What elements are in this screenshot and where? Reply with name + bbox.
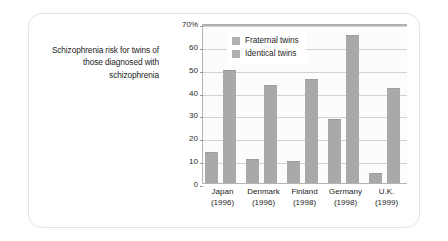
- bar-identical: [346, 35, 359, 184]
- bar-identical: [387, 88, 400, 184]
- x-axis-label-year: (1998): [325, 198, 366, 209]
- y-axis-tick-label: 10: [189, 157, 198, 166]
- bar-identical: [223, 70, 236, 184]
- bar-chart: 70%6050403020100 Fraternal twinsIdentica…: [172, 24, 412, 224]
- bar-group: [367, 26, 408, 184]
- x-axis-label: Denmark(1996): [243, 187, 284, 208]
- y-axis-tick-label: 70%: [182, 20, 198, 29]
- bar-fraternal: [246, 159, 259, 184]
- bar-fraternal: [205, 152, 218, 184]
- x-axis-label-year: (1996): [243, 198, 284, 209]
- y-axis-tick-label: 20: [189, 134, 198, 143]
- x-axis-label-country: U.K.: [366, 187, 407, 198]
- legend-item: Fraternal twins: [232, 34, 299, 47]
- y-axis-tick-label: 0: [194, 180, 198, 189]
- y-axis: 70%6050403020100: [172, 24, 198, 184]
- x-axis-label: Finland(1998): [284, 187, 325, 208]
- x-axis-label-country: Finland: [284, 187, 325, 198]
- x-axis-label-year: (1999): [366, 198, 407, 209]
- legend-swatch-identical: [232, 50, 240, 58]
- bar-fraternal: [369, 173, 382, 184]
- legend-swatch-fraternal: [232, 37, 240, 45]
- bar-fraternal: [328, 119, 341, 184]
- x-axis-label: Japan(1996): [202, 187, 243, 208]
- x-axis-label-year: (1998): [284, 198, 325, 209]
- x-axis-label-year: (1996): [202, 198, 243, 209]
- bar-identical: [305, 79, 318, 184]
- chart-legend: Fraternal twinsIdentical twins: [227, 31, 306, 63]
- plot-area: Fraternal twinsIdentical twins: [202, 24, 407, 184]
- legend-item-label: Identical twins: [245, 49, 296, 58]
- x-axis: Japan(1996)Denmark(1996)Finland(1998)Ger…: [202, 187, 407, 217]
- figure-caption: Schizophrenia risk for twins of those di…: [35, 44, 159, 81]
- legend-item-label: Fraternal twins: [245, 36, 299, 45]
- x-axis-label: Germany(1998): [325, 187, 366, 208]
- y-axis-tick-label: 30: [189, 111, 198, 120]
- bar-fraternal: [287, 161, 300, 184]
- y-axis-tick-label: 40: [189, 88, 198, 97]
- x-axis-label-country: Denmark: [243, 187, 284, 198]
- bar-identical: [264, 85, 277, 184]
- y-axis-tick-label: 50: [189, 65, 198, 74]
- legend-item: Identical twins: [232, 47, 299, 60]
- x-axis-label-country: Japan: [202, 187, 243, 198]
- x-axis-label-country: Germany: [325, 187, 366, 198]
- x-axis-label: U.K.(1999): [366, 187, 407, 208]
- y-axis-tick-label: 60: [189, 42, 198, 51]
- figure-card: Schizophrenia risk for twins of those di…: [28, 13, 420, 228]
- bar-group: [326, 26, 367, 184]
